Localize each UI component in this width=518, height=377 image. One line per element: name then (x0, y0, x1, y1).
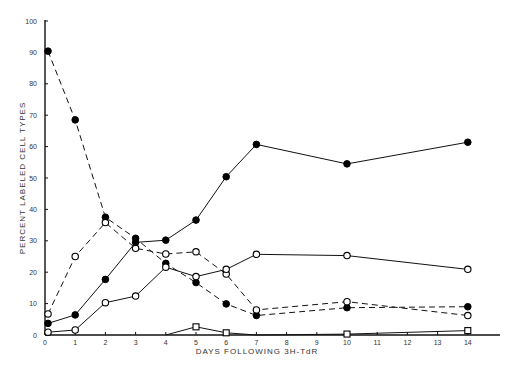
chart: 0102030405060708090100 01234567891011121… (0, 0, 518, 377)
x-tick-label: 13 (434, 339, 442, 346)
filled-circle-marker (193, 217, 200, 224)
filled-circle-marker (102, 276, 109, 283)
open-circle-marker (253, 251, 259, 257)
series-2 (45, 139, 471, 327)
x-tick-label: 0 (43, 339, 47, 346)
x-tick-label: 3 (134, 339, 138, 346)
open-circle-marker (223, 266, 229, 272)
y-tick-label: 30 (29, 237, 37, 244)
x-tick-label: 14 (464, 339, 472, 346)
axes: 0102030405060708090100 01234567891011121… (18, 18, 500, 357)
open-circle-marker (163, 251, 169, 257)
series-line (48, 142, 468, 323)
x-tick-label: 4 (164, 339, 168, 346)
x-tick-label: 6 (224, 339, 228, 346)
y-tick-label: 70 (29, 112, 37, 119)
open-square-marker (344, 331, 350, 337)
open-circle-marker (344, 252, 350, 258)
open-circle-marker (163, 264, 169, 270)
filled-circle-marker (45, 48, 52, 55)
y-tick-label: 40 (29, 206, 37, 213)
y-axis-title: PERCENT LABELED CELL TYPES (18, 102, 27, 255)
y-tick-label: 100 (25, 18, 37, 25)
y-tick-label: 20 (29, 269, 37, 276)
filled-circle-marker (163, 237, 170, 244)
x-tick-label: 8 (285, 339, 289, 346)
x-axis-title: DAYS FOLLOWING 3H-TdR (196, 347, 319, 356)
y-tick-label: 90 (29, 49, 37, 56)
open-circle-marker (72, 327, 78, 333)
filled-circle-marker (465, 139, 472, 146)
x-tick-label: 11 (374, 339, 381, 346)
y-tick-label: 60 (29, 143, 37, 150)
x-tick-label: 5 (194, 339, 198, 346)
filled-circle-marker (253, 141, 260, 148)
open-square-marker (223, 330, 229, 336)
y-tick-label: 0 (33, 332, 37, 339)
series-group (45, 48, 471, 337)
filled-circle-marker (223, 173, 230, 180)
series-line (48, 51, 468, 315)
y-tick-label: 50 (29, 175, 37, 182)
y-tick-label: 80 (29, 80, 37, 87)
filled-circle-marker (223, 301, 230, 308)
x-tick-label: 1 (73, 339, 77, 346)
open-circle-marker (102, 219, 108, 225)
open-circle-marker (72, 253, 78, 259)
series-3 (45, 251, 471, 335)
series-line (48, 254, 468, 332)
filled-circle-marker (72, 117, 79, 124)
filled-circle-marker (344, 161, 351, 168)
open-circle-marker (132, 293, 138, 299)
open-square-marker (465, 328, 471, 334)
open-circle-marker (344, 299, 350, 305)
x-tick-label: 10 (343, 339, 351, 346)
open-circle-marker (45, 311, 51, 317)
open-circle-marker (465, 312, 471, 318)
open-circle-marker (102, 299, 108, 305)
open-square-marker (193, 324, 199, 330)
open-circle-marker (465, 266, 471, 272)
filled-circle-marker (465, 303, 472, 310)
x-ticks: 01234567891011121314 (43, 332, 472, 346)
open-circle-marker (193, 249, 199, 255)
x-tick-label: 12 (404, 339, 412, 346)
filled-circle-marker (72, 312, 79, 319)
x-tick-label: 7 (254, 339, 258, 346)
y-tick-label: 10 (29, 300, 37, 307)
filled-circle-marker (132, 239, 139, 246)
x-tick-label: 9 (315, 339, 319, 346)
x-tick-label: 2 (103, 339, 107, 346)
open-circle-marker (45, 329, 51, 335)
open-circle-marker (253, 307, 259, 313)
open-circle-marker (193, 273, 199, 279)
filled-circle-marker (45, 320, 52, 327)
